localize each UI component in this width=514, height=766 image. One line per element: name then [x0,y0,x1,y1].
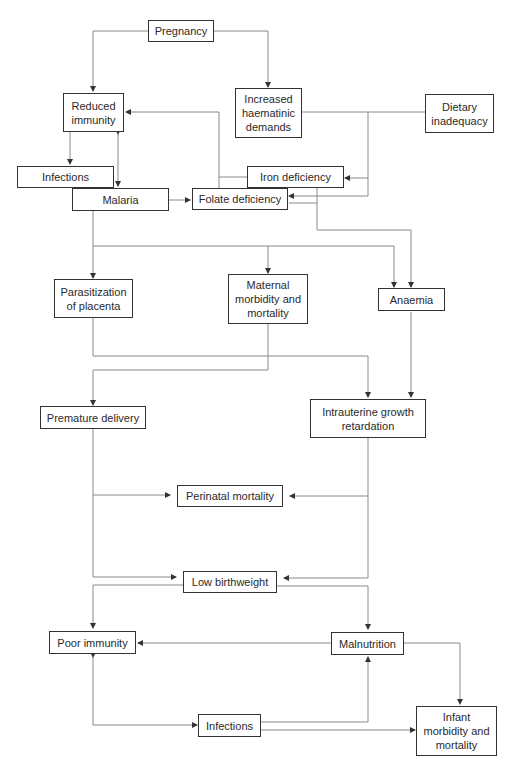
node-iron-deficiency: Iron deficiency [247,166,344,188]
node-maternal-morbidity-mortality: Maternal morbidity and mortality [228,274,308,324]
node-perinatal-mortality: Perinatal mortality [177,485,283,507]
edge-iron-anaemia [317,188,411,287]
edge-infections-malnutrition [261,657,368,722]
node-low-birthweight: Low birthweight [183,571,277,593]
node-malnutrition: Malnutrition [331,632,404,655]
node-dietary-inadequacy: Dietary inadequacy [425,94,494,133]
edge-iugr-down [284,438,368,578]
node-infections-top: Infections [17,166,114,188]
node-infections-bottom: Infections [198,714,261,737]
node-premature-delivery: Premature delivery [40,406,146,429]
node-poor-immunity: Poor immunity [49,631,136,654]
edge-lbw-poor-immunity [93,585,183,628]
edge-premature-down [93,429,176,577]
node-infant-morbidity-mortality: Infant morbidity and mortality [416,706,497,756]
edge-iron-folate-reduced-immunity [126,112,219,188]
node-reduced-immunity: Reduced immunity [63,93,124,132]
node-malaria: Malaria [72,188,169,211]
edge-parasitization-iugr [93,318,368,397]
edge-pregnancy-haematinic [213,31,268,87]
edge-pregnancy-reduced-immunity [93,31,148,91]
node-parasitization-of-placenta: Parasitization of placenta [54,279,133,318]
edge-lbw-malnutrition [277,586,368,629]
edge-maternal-premature [93,324,268,405]
edge-poor-immunity-infections [93,657,197,725]
node-increased-haematinic-demands: Increased haematinic demands [235,88,302,138]
node-anaemia: Anaemia [378,288,445,311]
node-intrauterine-growth-retardation: Intrauterine growth retardation [310,399,426,438]
node-folate-deficiency: Folate deficiency [192,188,288,210]
edge-malnutrition-infant [404,643,460,704]
node-pregnancy: Pregnancy [148,20,214,42]
